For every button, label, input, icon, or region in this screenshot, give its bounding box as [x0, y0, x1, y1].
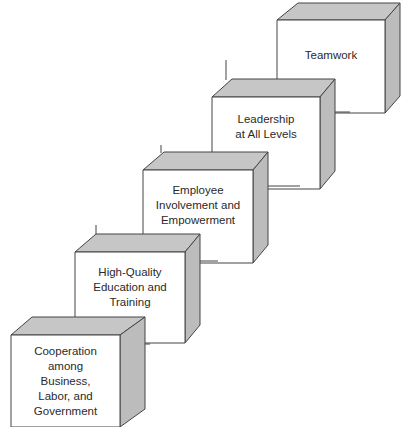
step-2-text: High-Quality Education and Training [93, 265, 167, 310]
step-2-label: High-Quality Education and Training [75, 252, 185, 322]
step-4-text: Leadership at All Levels [235, 112, 296, 142]
step-1-label: Cooperation among Business, Labor, and G… [11, 335, 120, 427]
step-5-label: Teamwork [277, 20, 385, 90]
step-3-label: Employee Involvement and Empowerment [143, 170, 253, 240]
step-3-text: Employee Involvement and Empowerment [156, 183, 240, 228]
step-1-text: Cooperation among Business, Labor, and G… [34, 344, 97, 419]
step-5-text: Teamwork [305, 48, 357, 63]
step-4-label: Leadership at All Levels [212, 97, 320, 157]
